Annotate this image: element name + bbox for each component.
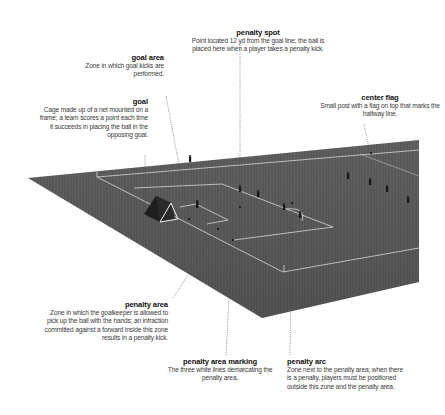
callout-penalty-spot: penalty spot Point located 12 yd from th… (178, 28, 338, 54)
player (369, 178, 371, 185)
callout-desc: pick up the ball with the hands; an infr… (18, 317, 168, 325)
callout-goal: goal Cage made up of a net mounted on a … (20, 97, 148, 140)
player (347, 172, 349, 179)
callout-center-flag: center flag Small post with a flag on to… (310, 93, 445, 119)
callout-desc: Small post with a flag on top that marks… (310, 102, 445, 110)
player (257, 190, 259, 197)
callout-desc: The three white lines demarcating the (160, 366, 280, 374)
callout-title: goal (20, 97, 148, 106)
player (283, 203, 285, 210)
player (407, 196, 409, 203)
callout-desc: committed against a forward inside this … (18, 326, 168, 334)
player (189, 155, 191, 162)
center-flag-dot (370, 152, 372, 154)
callout-desc: outside this zone and the penalty area. (287, 383, 427, 391)
player-goalkeeper (196, 200, 198, 208)
penalty-area-dot (217, 228, 219, 230)
callout-desc: placed here when a player takes a penalt… (178, 45, 338, 53)
callout-desc: performed. (54, 70, 164, 78)
callout-desc: halfway line. (310, 110, 445, 118)
callout-desc: Zone in which the goalkeeper is allowed … (18, 309, 168, 317)
penalty-area-marking-dot (232, 239, 234, 241)
callout-desc: opposing goal. (20, 131, 148, 139)
callout-penalty-area: penalty area Zone in which the goalkeepe… (18, 300, 168, 343)
callout-title: center flag (310, 93, 445, 102)
callout-desc: it succeeds in placing the ball in the (20, 123, 148, 131)
callout-desc: Zone next to the penalty area; when ther… (287, 366, 427, 374)
callout-title: penalty area marking (160, 357, 280, 366)
player (386, 185, 388, 192)
callout-desc: is a penalty, players must be positioned (287, 374, 427, 382)
callout-title: goal area (54, 53, 164, 62)
callout-title: penalty area (18, 300, 168, 309)
callout-desc: Zone in which goal kicks are (54, 62, 164, 70)
callout-goal-area: goal area Zone in which goal kicks are p… (54, 53, 164, 79)
goal-area-dot (188, 218, 190, 220)
callout-desc: results in a penalty kick. (18, 334, 168, 342)
callout-desc: frame; a team scores a point each time (20, 114, 148, 122)
penalty-spot-dot (239, 206, 241, 208)
callout-title: penalty spot (178, 28, 338, 37)
callout-desc: Cage made up of a net mounted on a (20, 106, 148, 114)
callout-penalty-arc: penalty arc Zone next to the penalty are… (287, 357, 427, 391)
callout-penalty-area-marking: penalty area marking The three white lin… (160, 357, 280, 383)
callout-title: penalty arc (287, 357, 427, 366)
callout-desc: Point located 12 yd from the goal line; … (178, 37, 338, 45)
penalty-arc-dot (291, 202, 293, 204)
player (299, 211, 301, 218)
callout-desc: penalty area. (160, 374, 280, 382)
